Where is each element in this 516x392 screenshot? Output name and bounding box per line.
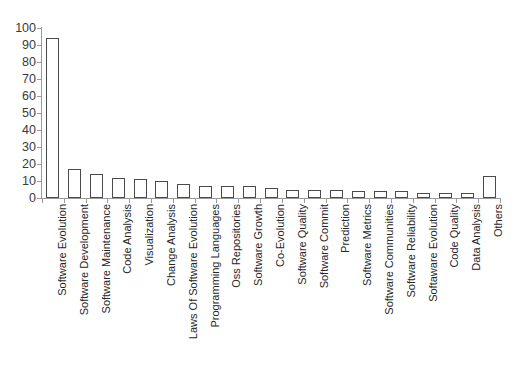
bar (439, 193, 452, 198)
bar-chart-figure: · · · 0102030405060708090100 Software Ev… (0, 0, 516, 392)
x-axis-tick-mark (173, 198, 174, 203)
x-axis-tick-mark (64, 198, 65, 203)
bar (155, 181, 168, 198)
y-axis-tick-label: 80 (22, 56, 42, 69)
x-axis-tick-label-text: Software Reliability (406, 204, 417, 298)
x-axis-tick-label: Data Analysis (471, 204, 482, 271)
y-axis-tick-label: 0 (29, 192, 42, 205)
bar-series (42, 28, 500, 198)
bar (286, 190, 299, 199)
x-axis-tick-label-text: Laws Of Software Evolution (188, 204, 199, 339)
x-axis-tick-mark (195, 198, 196, 203)
bar (330, 190, 343, 199)
x-axis-tick-mark (413, 198, 414, 203)
x-axis-tick-mark (260, 198, 261, 203)
x-axis-tick-mark (369, 198, 370, 203)
x-axis-tick-label: Code Analysis (122, 204, 133, 274)
x-axis-tick-mark (282, 198, 283, 203)
x-axis-tick-label: Oss Repositories (231, 204, 242, 288)
x-axis-tick-mark (347, 198, 348, 203)
x-axis-tick-label: Change Analysis (166, 204, 177, 286)
y-axis-tick-label: 100 (15, 22, 42, 35)
x-axis-tick-label: Visualization (144, 204, 155, 266)
y-axis-tick-label: 20 (22, 158, 42, 171)
bar (199, 186, 212, 198)
x-axis-tick-label: Software Metrics (362, 204, 373, 286)
y-axis-tick-label: 30 (22, 141, 42, 154)
x-axis-tick-label: Software Evolution (57, 204, 68, 296)
x-axis-tick-label-text: Software Growth (253, 204, 264, 286)
x-axis-tick-label-text: Code Analysis (122, 204, 133, 274)
bar (177, 184, 190, 198)
x-axis-tick-mark (129, 198, 130, 203)
x-axis-tick-label-text: Software Communities (384, 204, 395, 315)
x-axis-tick-label: Co-Evolution (275, 204, 286, 267)
x-axis-tick-mark (42, 198, 43, 203)
cropped-top-artifact: · · · (0, 0, 516, 9)
y-axis-tick-label: 70 (22, 73, 42, 86)
bar (90, 174, 103, 198)
x-axis-label-group: Software EvolutionSoftware DevelopmentSo… (42, 204, 500, 354)
x-axis-tick-mark (391, 198, 392, 203)
x-axis-tick-mark (107, 198, 108, 203)
bar (308, 190, 321, 199)
x-axis-tick-mark (86, 198, 87, 203)
artifact-fragment: · (185, 0, 188, 3)
x-axis-tick-label: Software Maintenance (101, 204, 112, 313)
x-axis-tick-label: Software Development (79, 204, 90, 315)
x-axis-tick-label-text: Softaware Evolution (428, 204, 439, 302)
artifact-fragment: · (433, 0, 436, 3)
x-axis-tick-label-text: Visualization (144, 204, 155, 266)
x-axis-tick-label-text: Oss Repositories (231, 204, 242, 288)
x-axis-tick-mark (435, 198, 436, 203)
bar (395, 191, 408, 198)
y-axis-tick-label: 60 (22, 90, 42, 103)
y-axis-tick-label: 90 (22, 39, 42, 52)
x-axis-tick-label: Software Reliability (406, 204, 417, 298)
x-axis-tick-label: Code Quality (449, 204, 460, 268)
x-axis-tick-label-text: Software Metrics (362, 204, 373, 286)
x-axis-tick-label: Software Commit (319, 204, 330, 288)
x-axis-tick-label-text: Software Evolution (57, 204, 68, 296)
x-axis-tick-label-text: Data Analysis (471, 204, 482, 271)
bar (483, 176, 496, 198)
bar (461, 193, 474, 198)
x-axis-tick-mark (456, 198, 457, 203)
x-axis-tick-label-text: Others (493, 204, 504, 237)
x-axis-tick-mark (326, 198, 327, 203)
x-axis-tick-label-text: Code Quality (449, 204, 460, 268)
x-axis-tick-label-text: Software Commit (319, 204, 330, 288)
bar (112, 178, 125, 198)
x-axis-tick-mark (238, 198, 239, 203)
x-axis-tick-mark (151, 198, 152, 203)
x-axis-tick-label: Software Communities (384, 204, 395, 315)
x-axis-tick-label-text: Change Analysis (166, 204, 177, 286)
y-axis-tick-label: 40 (22, 124, 42, 137)
x-axis-tick-mark (500, 198, 501, 203)
y-axis-tick-label: 10 (22, 175, 42, 188)
bar (352, 191, 365, 198)
x-axis-tick-label-text: Software Quality (297, 204, 308, 285)
bar (243, 186, 256, 198)
x-axis-tick-label: Softaware Evolution (428, 204, 439, 302)
bar (46, 38, 59, 198)
x-axis-tick-label-text: Software Maintenance (101, 204, 112, 313)
bar (134, 179, 147, 198)
x-axis-tick-label-text: Programming Languages (210, 204, 221, 328)
artifact-fragment: · (268, 0, 271, 3)
plot-area: 0102030405060708090100 (42, 28, 500, 198)
bar (417, 193, 430, 198)
x-axis-tick-label-text: Co-Evolution (275, 204, 286, 267)
x-axis-tick-label-text: Software Development (79, 204, 90, 315)
y-axis-tick-label: 50 (22, 107, 42, 120)
x-axis-tick-label: Others (493, 204, 504, 237)
bar (265, 188, 278, 198)
x-axis-tick-label: Software Growth (253, 204, 264, 286)
x-axis-line (41, 198, 501, 199)
bar (68, 169, 81, 198)
x-axis-tick-label: Laws Of Software Evolution (188, 204, 199, 339)
x-axis-tick-mark (478, 198, 479, 203)
x-axis-tick-label: Programming Languages (210, 204, 221, 328)
bar (374, 191, 387, 198)
bar (221, 186, 234, 198)
